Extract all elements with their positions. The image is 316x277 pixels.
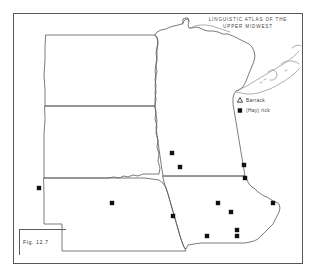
data-point-marker <box>235 234 239 238</box>
map-title-line-1: LINGUISTIC ATLAS OF THE <box>196 16 300 23</box>
data-point-marker <box>37 186 41 190</box>
map-legend: Barrack (Hay) rick <box>236 96 302 116</box>
data-point-marker <box>243 176 247 180</box>
data-point-marker <box>178 165 182 169</box>
data-point-marker <box>271 201 275 205</box>
data-point-marker <box>171 214 175 218</box>
filled-square-icon <box>236 106 246 115</box>
state-outline-south-dakota <box>44 106 160 178</box>
data-point-marker <box>235 228 239 232</box>
state-outline-north-dakota <box>44 35 158 106</box>
lake-superior-shoreline <box>236 51 299 91</box>
data-point-marker <box>170 151 174 155</box>
map-title: LINGUISTIC ATLAS OF THE UPPER MIDWEST <box>196 16 300 31</box>
data-point-marker <box>229 210 233 214</box>
data-point-marker <box>110 201 114 205</box>
legend-label-barrack: Barrack <box>246 98 265 103</box>
data-point-marker <box>205 234 209 238</box>
data-point-marker <box>242 163 246 167</box>
lake-superior-peninsula-detail <box>268 70 277 80</box>
data-point-marker <box>216 201 220 205</box>
figure-container: LINGUISTIC ATLAS OF THE UPPER MIDWEST Ba… <box>0 0 316 277</box>
legend-entry-barrack: Barrack <box>236 96 302 105</box>
lake-shore-islands <box>260 70 287 83</box>
legend-label-hay-rick: (Hay) rick <box>246 108 270 113</box>
legend-entry-hay-rick: (Hay) rick <box>236 106 302 115</box>
figure-caption: Fig. 12.7 <box>23 239 48 245</box>
map-title-line-2: UPPER MIDWEST <box>196 23 300 30</box>
state-outline-iowa <box>163 176 280 249</box>
lake-inlet-detail <box>292 45 301 48</box>
open-triangle-icon <box>236 96 246 105</box>
